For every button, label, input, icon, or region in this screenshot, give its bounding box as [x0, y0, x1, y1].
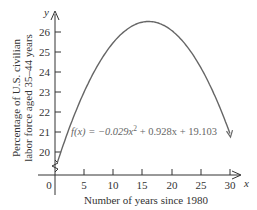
- x-tick-label: 30: [225, 179, 237, 191]
- x-tick-label: 20: [167, 179, 179, 191]
- x-tick-label: 25: [196, 179, 208, 191]
- x-ticks: [84, 169, 230, 175]
- y-axis-title: Percentage of U.S. civilian labor force …: [10, 34, 34, 162]
- chart: y x 26 25 24 23 22 21 20 0 5 10 15 20: [0, 0, 257, 210]
- y-tick-label: 20: [39, 146, 51, 158]
- y-tick-label: 25: [39, 46, 51, 58]
- function-label: f(x) = −0.029x2 + 0.928x + 19.103: [71, 124, 217, 138]
- y-tick-label: 26: [39, 26, 51, 38]
- y-axis-title-line1: Percentage of U.S. civilian: [10, 38, 22, 157]
- y-axis-symbol: y: [43, 6, 49, 18]
- x-tick-label: 5: [81, 179, 87, 191]
- y-ticks: [55, 32, 61, 152]
- y-axis-title-line2: labor force aged 35–44 years: [22, 34, 34, 162]
- x-axis-title: Number of years since 1980: [84, 194, 209, 206]
- function-rhs: + 0.928x + 19.103: [137, 126, 217, 137]
- y-tick-label: 23: [39, 86, 51, 98]
- x-axis-symbol: x: [243, 177, 249, 189]
- x-tick-label: 10: [108, 179, 120, 191]
- x-tick-label: 0: [46, 179, 52, 191]
- function-lhs: f(x) = −0.029x: [71, 126, 134, 138]
- y-tick-labels: 26 25 24 23 22 21 20: [39, 26, 51, 158]
- x-tick-label: 15: [137, 179, 149, 191]
- y-tick-label: 21: [39, 126, 50, 138]
- function-curve: [57, 22, 230, 163]
- y-tick-label: 24: [39, 66, 51, 78]
- x-tick-labels: 0 5 10 15 20 25 30: [46, 179, 236, 191]
- y-tick-label: 22: [39, 106, 50, 118]
